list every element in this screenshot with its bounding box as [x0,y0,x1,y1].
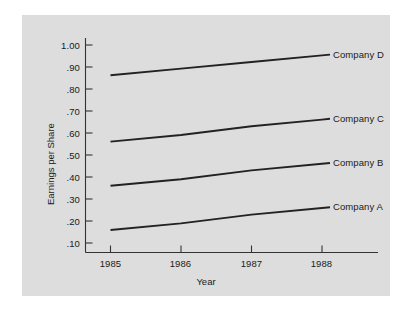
series-label-company-b: Company B [333,157,384,168]
y-tick-label-0-70: .70 [38,106,80,117]
x-tick-label-1985: 1985 [85,258,136,269]
x-tick-label-1987: 1987 [226,258,277,269]
series-label-company-d: Company D [333,49,384,60]
series-line-company-a [111,208,323,230]
y-tick-label-0-10: .10 [38,238,80,249]
y-axis-ticks [86,45,93,243]
y-tick-label-1-00: 1.00 [38,40,80,51]
series-line-company-b [111,164,323,186]
y-tick-label-0-80: .80 [38,84,80,95]
chart-figure: 1.00 .90 .80 .70 .60 .50 .40 .30 .20 .10… [0,0,412,314]
series-line-company-c [111,120,323,142]
x-tick-label-1988: 1988 [296,258,347,269]
y-tick-label-0-90: .90 [38,62,80,73]
x-axis-title: Year [0,276,412,287]
series-label-company-c: Company C [333,113,384,124]
series-label-leaders [322,55,330,208]
x-axis-ticks [111,246,323,253]
series-line-company-d [111,55,323,75]
y-axis-title: Earnings per Share [45,123,56,205]
series-label-company-a: Company A [333,201,383,212]
x-tick-label-1986: 1986 [155,258,206,269]
y-tick-label-0-20: .20 [38,216,80,227]
